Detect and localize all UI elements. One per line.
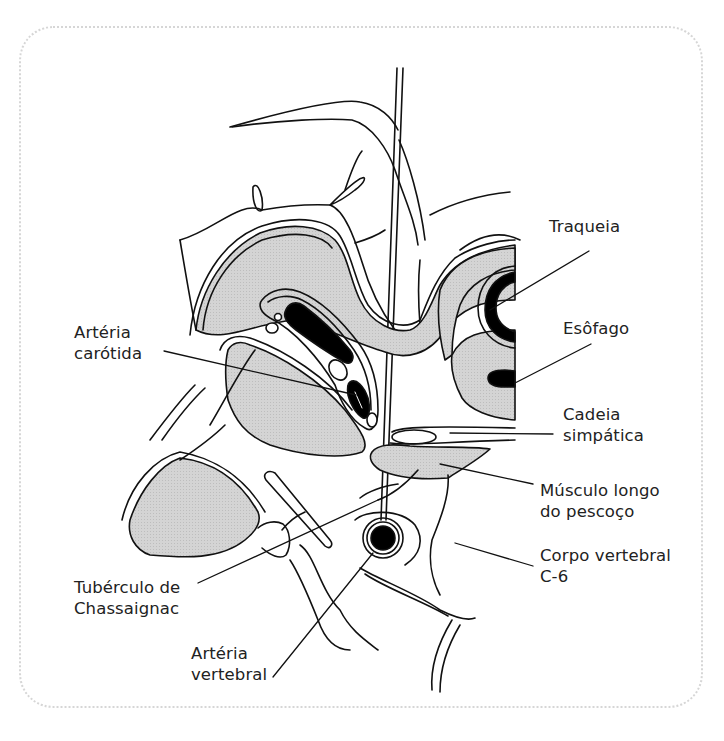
- label-esofago: Esôfago: [563, 318, 629, 339]
- label-tuberculo-de-chassaignac: Tubérculo de Chassaignac: [74, 577, 180, 619]
- label-arteria-carotida: Artéria carótida: [74, 322, 142, 364]
- neck-cross-section-illustration: [0, 0, 724, 741]
- posterior-scalene-muscle: [129, 458, 259, 557]
- label-arteria-vertebral: Artéria vertebral: [191, 643, 267, 685]
- sympathetic-chain: [392, 430, 436, 444]
- vertebral-artery: [371, 526, 395, 550]
- label-cadeia-simpatica: Cadeia simpática: [563, 404, 644, 446]
- label-corpo-vertebral-c6: Corpo vertebral C-6: [540, 545, 671, 587]
- longus-colli-muscle: [370, 445, 490, 479]
- label-traqueia: Traqueia: [549, 216, 620, 237]
- c6-vertebra: [258, 470, 475, 692]
- esophagus-lumen: [488, 370, 515, 387]
- label-musculo-longo-do-pescoco: Músculo longo do pescoço: [540, 480, 660, 522]
